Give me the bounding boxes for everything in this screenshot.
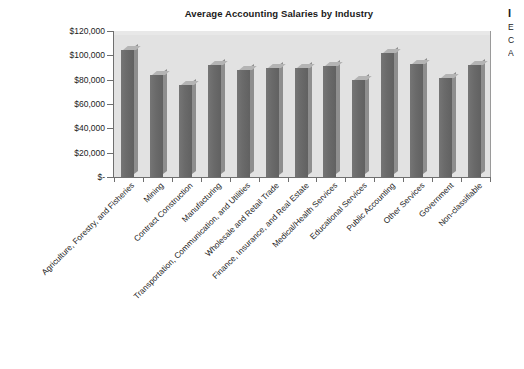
margin-line-fragment: E	[508, 21, 524, 34]
bar-side-face	[221, 59, 225, 174]
y-axis-tick-label: $60,000	[74, 99, 105, 109]
bar-front-face	[439, 78, 452, 177]
y-axis-tick-label: $120,000	[70, 26, 105, 36]
bar-side-face	[394, 47, 398, 174]
bar-side-face	[452, 73, 456, 174]
bar-front-face	[121, 50, 134, 177]
bar-side-face	[481, 59, 485, 174]
bar-side-face	[192, 79, 196, 174]
bar-top-face	[383, 49, 401, 53]
bar-front-face	[208, 65, 221, 177]
bar	[468, 65, 481, 177]
bar-top-face	[441, 74, 459, 78]
y-axis: $120,000$100,000$80,000$60,000$40,000$20…	[0, 31, 114, 178]
y-axis-tick-label: $100,000	[70, 50, 105, 60]
bar	[266, 68, 279, 178]
bar-side-face	[308, 62, 312, 174]
bar	[179, 85, 192, 177]
bar	[237, 70, 250, 177]
x-axis-label: Agriculture, Forestry, and Fisheries	[41, 181, 137, 277]
bar-side-face	[279, 62, 283, 174]
bar-side-face	[134, 45, 138, 174]
bar	[439, 78, 452, 177]
y-axis-tick-label: $80,000	[74, 75, 105, 85]
x-axis-labels: Agriculture, Forestry, and FisheriesMini…	[0, 177, 524, 367]
bar-top-face	[470, 61, 488, 65]
bar	[208, 65, 221, 177]
bar-front-face	[237, 70, 250, 177]
bar-side-face	[365, 74, 369, 174]
margin-line-fragment: A	[508, 47, 524, 60]
bar-front-face	[381, 53, 394, 177]
bar-side-face	[336, 60, 340, 174]
bar	[121, 50, 134, 177]
bar-front-face	[179, 85, 192, 177]
bar	[150, 75, 163, 177]
bar-side-face	[423, 58, 427, 174]
y-axis-tick-label: $20,000	[74, 148, 105, 158]
bar-side-face	[250, 64, 254, 174]
bar-series	[114, 31, 490, 177]
bar-front-face	[266, 68, 279, 178]
x-axis-label: Mining	[142, 181, 165, 204]
bar-front-face	[468, 65, 481, 177]
margin-line-fragment: C	[508, 34, 524, 47]
bar	[323, 66, 336, 177]
bar-front-face	[352, 80, 365, 177]
chart-title: Average Accounting Salaries by Industry	[114, 8, 444, 19]
bar-top-face	[325, 62, 343, 66]
margin-heading-fragment: I	[508, 6, 524, 21]
bar	[381, 53, 394, 177]
bar-side-face	[163, 69, 167, 174]
x-axis-label: Public Accounting	[345, 181, 397, 233]
y-axis-tick-label: $40,000	[74, 123, 105, 133]
bar-front-face	[410, 64, 423, 177]
bar-front-face	[150, 75, 163, 177]
chart-page: Average Accounting Salaries by Industry …	[0, 0, 524, 369]
bar-top-face	[412, 60, 430, 64]
bar-top-face	[354, 76, 372, 80]
bar	[410, 64, 423, 177]
bar-top-face	[123, 46, 141, 50]
page-margin-text: IECA	[508, 6, 524, 60]
bar-front-face	[295, 68, 308, 178]
bar-front-face	[323, 66, 336, 177]
plot-area-wrapper	[114, 31, 490, 177]
bar	[352, 80, 365, 177]
bar	[295, 68, 308, 178]
